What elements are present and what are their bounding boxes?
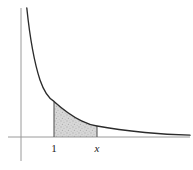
tick-label-one: 1: [51, 142, 57, 154]
tick-label-x: x: [94, 142, 100, 154]
figure-container: 1 x: [0, 0, 193, 170]
hyperbola-area-figure: 1 x: [0, 0, 193, 170]
